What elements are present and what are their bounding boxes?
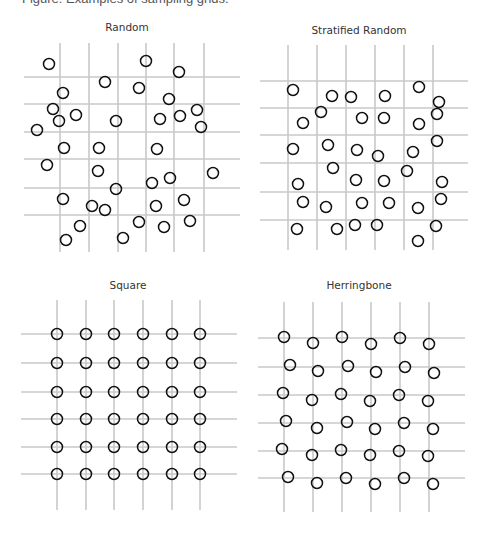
sample-point-circle	[58, 88, 69, 99]
sample-point-circle	[365, 396, 376, 407]
sample-point-circle	[357, 113, 368, 124]
sample-point-circle	[321, 202, 332, 213]
sample-point-circle	[288, 144, 299, 155]
sample-point-circle	[111, 116, 122, 127]
sample-point-circle	[278, 388, 289, 399]
panel-title: Herringbone	[326, 279, 391, 291]
sample-point-circle	[351, 175, 362, 186]
panel-stratified-random: Stratified Random	[260, 24, 468, 250]
sample-point-circle	[327, 91, 338, 102]
panel-square: Square	[21, 279, 237, 510]
sample-point-circle	[87, 201, 98, 212]
sample-point-circle	[155, 114, 166, 125]
sample-point-circle	[336, 445, 347, 456]
sample-point-circle	[379, 176, 390, 187]
sample-point-circle	[328, 163, 339, 174]
sample-point-circle	[357, 198, 368, 209]
sample-point-circle	[58, 194, 69, 205]
sample-point-circle	[298, 197, 309, 208]
sample-point-circle	[437, 177, 448, 188]
sample-point-circle	[208, 168, 219, 179]
sample-point-circle	[147, 178, 158, 189]
sample-point-circle	[342, 417, 353, 428]
sample-point-circle	[423, 451, 434, 462]
sample-point-circle	[61, 235, 72, 246]
sample-point-circle	[134, 83, 145, 94]
sample-point-circle	[292, 224, 303, 235]
sample-point-circle	[413, 236, 424, 247]
sample-point-circle	[352, 145, 363, 156]
sample-point-circle	[434, 97, 445, 108]
sample-point-circle	[384, 198, 395, 209]
sample-point-circle	[32, 125, 43, 136]
sample-point-circle	[281, 416, 292, 427]
sample-points	[277, 332, 440, 490]
sample-point-circle	[179, 195, 190, 206]
sample-point-circle	[431, 221, 442, 232]
sample-point-circle	[285, 360, 296, 371]
sample-point-circle	[94, 143, 105, 154]
sample-point-circle	[343, 361, 354, 372]
sample-point-circle	[332, 224, 343, 235]
sample-point-circle	[54, 116, 65, 127]
sample-point-circle	[371, 367, 382, 378]
grid-lines	[24, 43, 240, 252]
sample-point-circle	[288, 85, 299, 96]
sample-point-circle	[185, 216, 196, 227]
sample-point-circle	[350, 220, 361, 231]
sample-point-circle	[336, 389, 347, 400]
sample-point-circle	[408, 147, 419, 158]
sample-point-circle	[192, 105, 203, 116]
sample-point-circle	[118, 233, 129, 244]
sample-point-circle	[436, 194, 447, 205]
sample-point-circle	[429, 368, 440, 379]
panel-title: Stratified Random	[311, 24, 406, 36]
sample-point-circle	[48, 104, 59, 115]
sample-point-circle	[346, 92, 357, 103]
sample-point-circle	[293, 179, 304, 190]
sample-point-circle	[164, 94, 175, 105]
sample-point-circle	[151, 201, 162, 212]
sample-point-circle	[402, 166, 413, 177]
sample-point-circle	[100, 205, 111, 216]
sample-points	[288, 82, 448, 247]
sample-point-circle	[71, 110, 82, 121]
panel-title: Square	[110, 279, 147, 291]
panel-title: Random	[105, 21, 148, 33]
sample-point-circle	[298, 118, 309, 129]
sampling-grids-figure: Random Stratified Random Square Herringb…	[0, 0, 492, 533]
sample-point-circle	[134, 217, 145, 228]
sample-point-circle	[414, 119, 425, 130]
sample-point-circle	[175, 111, 186, 122]
sample-point-circle	[373, 151, 384, 162]
sample-point-circle	[159, 222, 170, 233]
sample-point-circle	[277, 444, 288, 455]
sample-points	[52, 329, 206, 480]
sample-point-circle	[93, 166, 104, 177]
sample-point-circle	[75, 221, 86, 232]
sample-point-circle	[111, 184, 122, 195]
sample-point-circle	[42, 160, 53, 171]
sample-point-circle	[380, 91, 391, 102]
sample-point-circle	[196, 122, 207, 133]
sample-point-circle	[372, 220, 383, 231]
sample-point-circle	[44, 59, 55, 70]
panel-herringbone: Herringbone	[258, 279, 465, 512]
grid-lines	[260, 45, 468, 250]
panel-random: Random	[24, 21, 240, 252]
sample-point-circle	[414, 82, 425, 93]
sample-point-circle	[423, 396, 434, 407]
sample-point-circle	[152, 144, 163, 155]
sample-point-circle	[307, 395, 318, 406]
sample-point-circle	[413, 203, 424, 214]
sample-point-circle	[100, 77, 111, 88]
sample-point-circle	[379, 113, 390, 124]
sample-point-circle	[323, 140, 334, 151]
sample-point-circle	[174, 67, 185, 78]
